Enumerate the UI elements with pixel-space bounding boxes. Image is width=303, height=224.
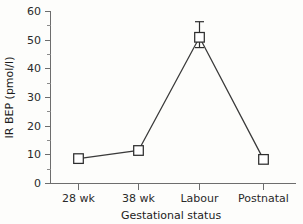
chart-figure: 0 10 20 30 40 50 60 IR BEP (pmol/l) 28 w… <box>0 0 303 224</box>
x-axis-ticks <box>79 184 264 190</box>
x-tick-label-labour: Labour <box>180 192 219 205</box>
y-axis-title: IR BEP (pmol/l) <box>3 57 16 139</box>
y-tick-label-20: 20 <box>27 120 41 133</box>
y-axis-major-ticks <box>45 12 51 184</box>
data-point-postnatal <box>259 155 269 165</box>
y-tick-label-60: 60 <box>27 5 41 18</box>
y-tick-label-30: 30 <box>27 91 41 104</box>
x-tick-label-28wk: 28 wk <box>62 192 95 205</box>
y-tick-label-50: 50 <box>27 34 41 47</box>
y-tick-label-40: 40 <box>27 62 41 75</box>
y-tick-label-10: 10 <box>27 148 41 161</box>
data-point-labour <box>195 33 205 43</box>
series-line-ir-bep <box>79 37 264 159</box>
x-axis-title: Gestational status <box>121 209 222 222</box>
x-tick-label-38wk: 38 wk <box>122 192 155 205</box>
x-tick-label-postnatal: Postnatal <box>238 192 289 205</box>
y-tick-label-0: 0 <box>34 177 41 190</box>
line-chart: 0 10 20 30 40 50 60 IR BEP (pmol/l) 28 w… <box>0 0 303 224</box>
data-point-28wk <box>74 154 84 164</box>
data-point-38wk <box>134 146 144 156</box>
